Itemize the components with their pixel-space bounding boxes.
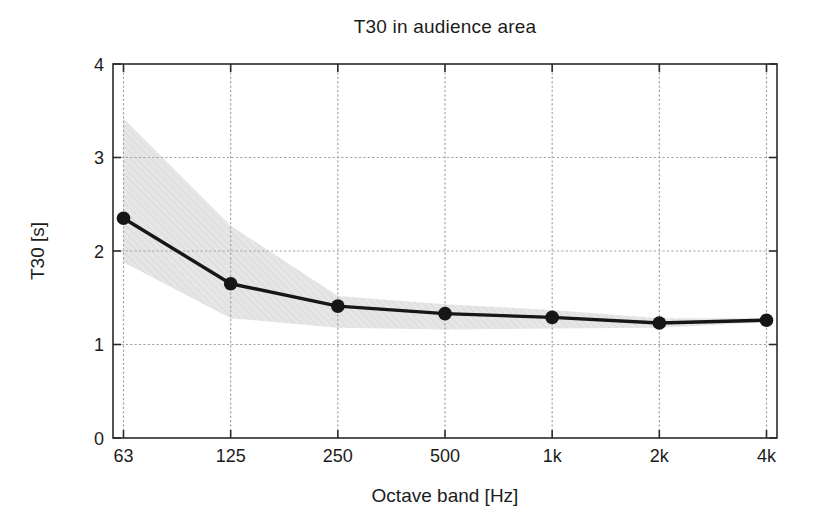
x-tick-labels: 631252505001k2k4k: [113, 446, 777, 466]
x-tick-label-250: 250: [323, 446, 353, 466]
plot-canvas: 631252505001k2k4k01234: [0, 0, 820, 525]
y-tick-label-1: 1: [94, 335, 104, 355]
data-point-2k: [653, 316, 667, 330]
x-tick-label-1k: 1k: [543, 446, 563, 466]
data-point-250: [331, 299, 345, 313]
x-tick-label-500: 500: [430, 446, 460, 466]
data-point-63: [117, 211, 131, 225]
y-tick-label-2: 2: [94, 242, 104, 262]
data-point-125: [224, 277, 238, 291]
x-tick-label-2k: 2k: [650, 446, 670, 466]
data-point-1k: [545, 311, 559, 325]
y-tick-label-3: 3: [94, 148, 104, 168]
t30-chart-figure: T30 in audience area T30 [s] Octave band…: [0, 0, 820, 525]
x-tick-label-125: 125: [216, 446, 246, 466]
y-tick-labels: 01234: [94, 55, 104, 449]
x-tick-label-63: 63: [113, 446, 133, 466]
y-tick-label-4: 4: [94, 55, 104, 75]
y-tick-label-0: 0: [94, 429, 104, 449]
data-point-4k: [760, 313, 774, 327]
data-point-500: [438, 307, 452, 321]
x-tick-label-4k: 4k: [757, 446, 777, 466]
